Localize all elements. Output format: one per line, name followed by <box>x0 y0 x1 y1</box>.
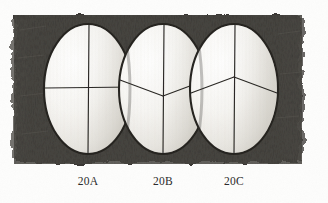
caption-20a: 20A <box>58 175 118 187</box>
caption-row: 20A 20B 20C <box>0 170 328 192</box>
figure-illustration: 20A 20B 20C <box>0 0 328 203</box>
caption-20b: 20B <box>133 175 193 187</box>
caption-20c: 20C <box>204 175 264 187</box>
